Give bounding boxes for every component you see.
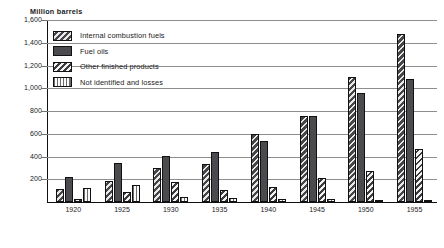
bar[interactable] <box>424 200 432 202</box>
bar[interactable] <box>74 199 82 202</box>
bar[interactable] <box>300 116 308 202</box>
bar[interactable] <box>318 178 326 202</box>
bar[interactable] <box>327 199 335 202</box>
x-tick-label: 1940 <box>243 206 294 213</box>
legend-item-internal-combustion-fuels[interactable]: Internal combustion fuels <box>53 29 165 42</box>
bar[interactable] <box>202 164 210 202</box>
bar-group-1945 <box>300 20 335 202</box>
legend-item-label: Fuel oils <box>80 47 108 56</box>
bar[interactable] <box>251 134 259 202</box>
bar-group-1955 <box>397 20 432 202</box>
bar[interactable] <box>220 190 228 203</box>
y-tick-label: 1,000 <box>24 84 42 91</box>
chart-legend: Internal combustion fuels Fuel oils Othe… <box>53 29 165 91</box>
x-tick-label: 1930 <box>145 206 196 213</box>
y-axis-tick-labels: 2004006008001,0001,2001,4001,600 <box>0 0 42 248</box>
x-tick-label: 1935 <box>194 206 245 213</box>
bar-chart: Million barrels 2004006008001,0001,2001,… <box>0 0 444 248</box>
x-tick-label: 1920 <box>48 206 99 213</box>
bar-group-1940 <box>251 20 286 202</box>
x-tick-label: 1945 <box>292 206 343 213</box>
legend-item-label: Not identified and losses <box>80 78 163 87</box>
bar[interactable] <box>357 93 365 202</box>
bar[interactable] <box>162 156 170 202</box>
bar[interactable] <box>114 163 122 202</box>
bar[interactable] <box>278 199 286 202</box>
legend-swatch-icon <box>53 62 72 72</box>
bar[interactable] <box>260 141 268 202</box>
x-tick-label: 1950 <box>340 206 391 213</box>
bar[interactable] <box>132 185 140 202</box>
bar[interactable] <box>65 177 73 202</box>
bar[interactable] <box>366 171 374 202</box>
legend-swatch-icon <box>53 46 72 56</box>
legend-item-label: Other finished products <box>80 62 159 71</box>
bar[interactable] <box>171 182 179 202</box>
legend-swatch-icon <box>53 31 72 41</box>
bar[interactable] <box>211 152 219 202</box>
bar[interactable] <box>375 200 383 202</box>
legend-item-not-identified-and-losses[interactable]: Not identified and losses <box>53 76 165 89</box>
bar[interactable] <box>348 77 356 202</box>
bar[interactable] <box>56 189 64 202</box>
y-tick-label: 1,200 <box>24 62 42 69</box>
legend-swatch-icon <box>53 77 72 87</box>
bar[interactable] <box>105 181 113 202</box>
bar[interactable] <box>309 116 317 202</box>
x-tick-label: 1925 <box>97 206 148 213</box>
bar[interactable] <box>123 192 131 202</box>
bar[interactable] <box>269 187 277 202</box>
bar-group-1935 <box>202 20 237 202</box>
legend-item-fuel-oils[interactable]: Fuel oils <box>53 45 165 58</box>
legend-item-other-finished-products[interactable]: Other finished products <box>53 60 165 73</box>
x-tick-label: 1955 <box>389 206 440 213</box>
legend-item-label: Internal combustion fuels <box>80 31 165 40</box>
bar[interactable] <box>180 197 188 202</box>
bar[interactable] <box>229 198 237 202</box>
bar[interactable] <box>415 149 423 202</box>
y-tick-label: 1,600 <box>24 16 42 23</box>
bar-group-1950 <box>348 20 383 202</box>
y-tick-label: 1,400 <box>24 39 42 46</box>
gridline <box>47 202 437 203</box>
bar[interactable] <box>406 79 414 202</box>
bar[interactable] <box>83 188 91 202</box>
bar[interactable] <box>153 168 161 202</box>
bar[interactable] <box>397 34 405 202</box>
